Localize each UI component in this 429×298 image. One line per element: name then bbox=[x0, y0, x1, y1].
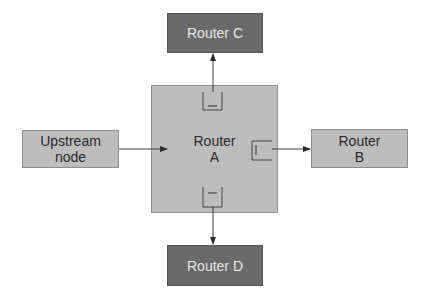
router-b-label-line2: B bbox=[355, 149, 364, 165]
router-b-label-line1: Router bbox=[338, 133, 380, 149]
upstream-label-line2: node bbox=[55, 149, 86, 165]
router-a-label-line1: Router bbox=[193, 133, 235, 149]
router-b-node: Router B bbox=[311, 129, 408, 168]
network-diagram: Router A Router C Router D Upstream node… bbox=[0, 0, 429, 298]
router-d-label: Router D bbox=[187, 258, 243, 274]
router-a-label-line2: A bbox=[210, 149, 219, 165]
router-c-label: Router C bbox=[187, 25, 243, 41]
upstream-label-line1: Upstream bbox=[40, 133, 101, 149]
router-c-node: Router C bbox=[167, 13, 263, 53]
router-d-node: Router D bbox=[167, 245, 263, 286]
router-a-node: Router A bbox=[151, 85, 278, 213]
upstream-node: Upstream node bbox=[22, 130, 119, 168]
